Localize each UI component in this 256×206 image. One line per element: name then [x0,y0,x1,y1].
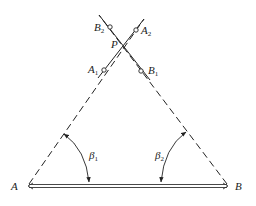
label-p: P [110,38,118,50]
label-a2: A2 [140,24,152,38]
peg-a1 [102,68,106,72]
peg-a2 [134,28,138,32]
intersection-diagram: A B P A1 A2 B1 B2 β1 β2 [0,0,256,206]
label-a1: A1 [87,63,99,77]
sight-line-a [29,19,144,184]
label-a: A [10,180,18,192]
peg-b1 [139,69,143,73]
angle-arc-beta1 [64,134,89,182]
label-beta1: β1 [88,149,98,163]
label-b1: B1 [148,64,159,78]
label-beta2: β2 [154,149,164,163]
baseline-ab [28,183,228,189]
label-b: B [235,180,242,192]
label-b2: B2 [94,21,105,35]
peg-b2 [108,25,112,29]
angle-arc-beta2 [161,132,186,182]
